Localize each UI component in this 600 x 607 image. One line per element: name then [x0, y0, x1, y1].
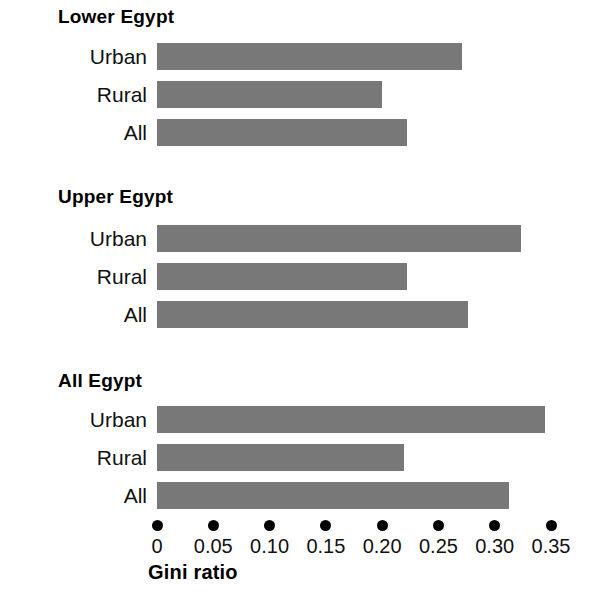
row-label-1-1: Rural [0, 263, 147, 290]
group-title-1: Upper Egypt [58, 186, 173, 208]
row-label-1-2: All [0, 301, 147, 328]
group-title-0: Lower Egypt [58, 6, 174, 28]
bar-1-0 [157, 225, 521, 252]
x-tick-dot-3 [320, 520, 331, 531]
bar-0-2 [157, 119, 407, 146]
x-tick-dot-4 [377, 520, 388, 531]
row-label-2-1: Rural [0, 444, 147, 471]
bar-1-2 [157, 301, 468, 328]
x-tick-dot-1 [208, 520, 219, 531]
gini-ratio-bar-chart: Lower EgyptUrbanRuralAllUpper EgyptUrban… [0, 0, 600, 607]
bar-2-1 [157, 444, 404, 471]
x-tick-dot-7 [546, 520, 557, 531]
bar-1-1 [157, 263, 407, 290]
x-tick-dot-2 [264, 520, 275, 531]
bar-2-2 [157, 482, 509, 509]
x-tick-dot-0 [152, 520, 163, 531]
row-label-0-1: Rural [0, 81, 147, 108]
row-label-2-0: Urban [0, 406, 147, 433]
x-axis-title: Gini ratio [148, 561, 238, 584]
bar-0-0 [157, 43, 462, 70]
bar-0-1 [157, 81, 382, 108]
row-label-0-0: Urban [0, 43, 147, 70]
row-label-1-0: Urban [0, 225, 147, 252]
x-tick-dot-6 [489, 520, 500, 531]
group-title-2: All Egypt [58, 370, 142, 392]
row-label-0-2: All [0, 119, 147, 146]
x-tick-dot-5 [433, 520, 444, 531]
row-label-2-2: All [0, 482, 147, 509]
x-tick-label-7: 0.35 [511, 534, 591, 558]
bar-2-0 [157, 406, 545, 433]
